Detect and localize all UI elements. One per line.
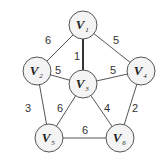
node-subscript: 2 (39, 72, 43, 80)
edge-weight-label: 6 (82, 124, 88, 136)
edge-weight-label: 1 (74, 50, 80, 62)
node-label: V (42, 130, 52, 145)
edge-weight-label: 3 (25, 102, 31, 114)
nodes-group: V1V2V3V4V5V6 (23, 11, 155, 152)
node-subscript: 5 (51, 139, 55, 147)
node-v3: V3 (69, 70, 97, 98)
node-subscript: 6 (122, 139, 126, 147)
graph-svg: 6515536426 V1V2V3V4V5V6 (0, 0, 165, 162)
edge-weight-label: 5 (113, 34, 119, 46)
edge-weight-label: 2 (132, 102, 138, 114)
edge-weight-label: 5 (110, 64, 116, 76)
node-label: V (134, 63, 144, 78)
node-label: V (76, 17, 86, 32)
graph-diagram: 6515536426 V1V2V3V4V5V6 (0, 0, 165, 162)
edge-weight-label: 5 (55, 64, 61, 76)
node-v6: V6 (106, 124, 134, 152)
edge-weight-label: 6 (57, 102, 63, 114)
node-label: V (113, 130, 123, 145)
node-v5: V5 (35, 124, 63, 152)
node-subscript: 1 (85, 26, 89, 34)
node-v1: V1 (69, 11, 97, 39)
node-v2: V2 (23, 57, 51, 85)
node-v4: V4 (127, 57, 155, 85)
edge-weight-label: 4 (104, 102, 110, 114)
node-subscript: 4 (143, 72, 147, 80)
node-label: V (76, 76, 86, 91)
node-subscript: 3 (84, 85, 89, 93)
edge-weight-label: 6 (45, 34, 51, 46)
node-label: V (30, 63, 40, 78)
